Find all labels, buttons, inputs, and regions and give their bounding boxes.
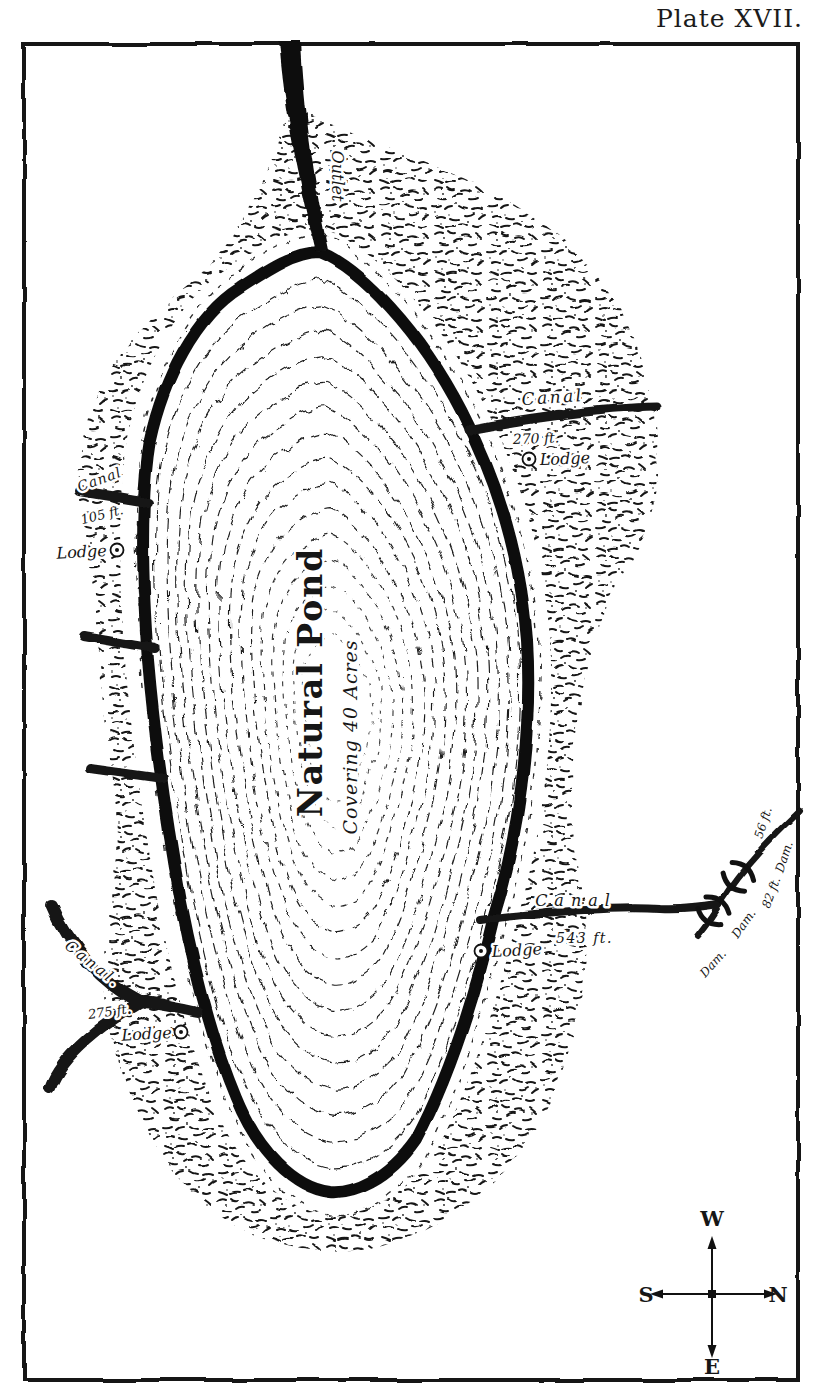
- pond-title: Natural Pond: [291, 547, 330, 818]
- canal-right-length: 543 ft.: [556, 930, 613, 946]
- dam-label-1: Dam.: [772, 839, 796, 875]
- lodge-icon: [475, 945, 488, 958]
- dam-length-2: 82 ft.: [759, 875, 783, 910]
- lodge-bottom-left-label: Lodge: [120, 1023, 172, 1045]
- canal-right-label: Canal: [535, 891, 617, 910]
- compass-rose: W S N E: [638, 1206, 787, 1379]
- outlet-label: Outlet: [328, 151, 347, 202]
- canal-top-right-length: 270 ft.: [512, 429, 560, 447]
- lodge-left-label: Lodge: [55, 541, 107, 563]
- lodge-icon: [111, 544, 124, 557]
- lodge-icon: [523, 453, 536, 466]
- pond-map-figure: Outlet 56 ft. Dam. 82 ft.: [0, 0, 815, 1400]
- dam-length-1: 56 ft.: [752, 805, 775, 840]
- lodge-top-right-label: Lodge: [538, 448, 590, 469]
- dam-label-2: Dam.: [728, 907, 758, 942]
- compass-south: S: [638, 1282, 653, 1307]
- compass-north: N: [768, 1282, 787, 1307]
- dam-label-3: Dam.: [696, 947, 728, 981]
- lodge-right-label: Lodge: [490, 939, 542, 961]
- lodge-icon: [175, 1026, 188, 1039]
- compass-west: W: [699, 1206, 724, 1231]
- pond-subtitle: Covering 40 Acres: [339, 639, 361, 834]
- compass-arrow-up: [708, 1236, 717, 1249]
- map-plate-page: Plate XVII.: [0, 0, 815, 1400]
- compass-east: E: [704, 1354, 720, 1379]
- compass-center-square: [708, 1290, 716, 1298]
